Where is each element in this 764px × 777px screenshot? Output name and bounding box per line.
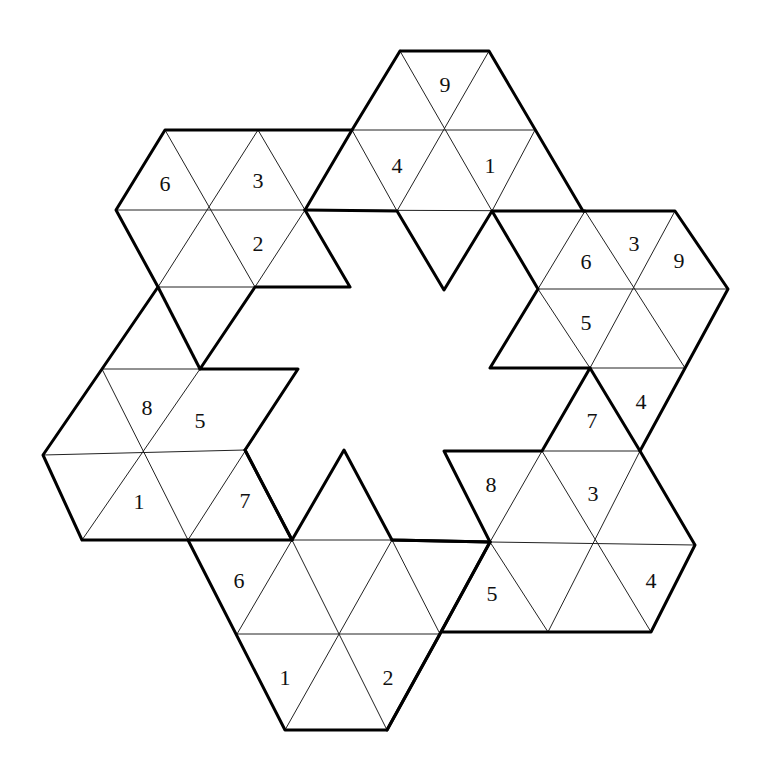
given-digit: 2 (383, 665, 394, 690)
given-digit: 9 (674, 248, 685, 273)
given-digit: 1 (134, 489, 145, 514)
given-digit: 7 (587, 408, 598, 433)
given-digit: 4 (636, 389, 647, 414)
given-digit: 5 (195, 408, 206, 433)
given-digit: 3 (629, 231, 640, 256)
given-digit: 8 (142, 395, 153, 420)
given-digit: 2 (253, 231, 264, 256)
given-digit: 8 (486, 472, 497, 497)
given-digit: 1 (485, 153, 496, 178)
given-digit: 6 (160, 171, 171, 196)
given-digit: 3 (588, 481, 599, 506)
puzzle-board: 9 4 1 6 3 2 6 3 9 5 8 5 4 7 1 7 8 3 6 5 … (0, 0, 764, 777)
given-digit: 4 (392, 153, 403, 178)
given-digit: 6 (581, 249, 592, 274)
given-digit: 4 (646, 568, 657, 593)
given-digit: 3 (253, 168, 264, 193)
region-borders (43, 51, 728, 730)
given-digit: 6 (234, 568, 245, 593)
given-digit: 7 (240, 488, 251, 513)
given-digit: 9 (440, 72, 451, 97)
grid-lines (43, 51, 728, 730)
given-digit: 5 (487, 581, 498, 606)
given-digit: 5 (581, 310, 592, 335)
given-digit: 1 (280, 665, 291, 690)
